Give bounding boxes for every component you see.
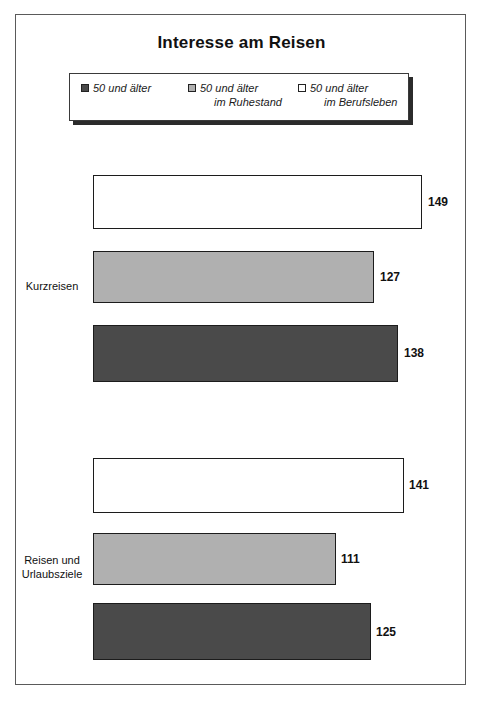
group-label-reisen-urlaubsziele: Reisen undUrlaubsziele bbox=[16, 553, 88, 581]
bar-reisen-urlaubsziele-50plus bbox=[93, 603, 371, 660]
bar-kurzreisen-ruhestand-value-label: 127 bbox=[380, 270, 400, 284]
bar-reisen-urlaubsziele-ruhestand bbox=[93, 533, 336, 585]
group-label-line2: Urlaubsziele bbox=[22, 568, 83, 580]
bar-reisen-urlaubsziele-50plus-value-label: 125 bbox=[376, 625, 396, 639]
chart-frame: Interesse am Reisen 50 und älter 50 und … bbox=[15, 14, 466, 685]
plot-area: 149127138141111125KurzreisenReisen undUr… bbox=[16, 15, 467, 686]
bar-kurzreisen-50plus-value-label: 138 bbox=[404, 346, 424, 360]
group-label-kurzreisen: Kurzreisen bbox=[16, 279, 88, 293]
chart-page: Interesse am Reisen 50 und älter 50 und … bbox=[0, 0, 482, 703]
group-label-line1: Kurzreisen bbox=[26, 280, 79, 292]
group-label-line1: Reisen und bbox=[24, 554, 80, 566]
bar-kurzreisen-berufsleben bbox=[93, 175, 422, 229]
bar-kurzreisen-50plus bbox=[93, 325, 398, 382]
bar-reisen-urlaubsziele-berufsleben bbox=[93, 458, 404, 513]
bar-reisen-urlaubsziele-berufsleben-value-label: 141 bbox=[409, 478, 429, 492]
bar-kurzreisen-berufsleben-value-label: 149 bbox=[428, 195, 448, 209]
bar-kurzreisen-ruhestand bbox=[93, 251, 374, 303]
bar-reisen-urlaubsziele-ruhestand-value-label: 111 bbox=[341, 552, 360, 566]
